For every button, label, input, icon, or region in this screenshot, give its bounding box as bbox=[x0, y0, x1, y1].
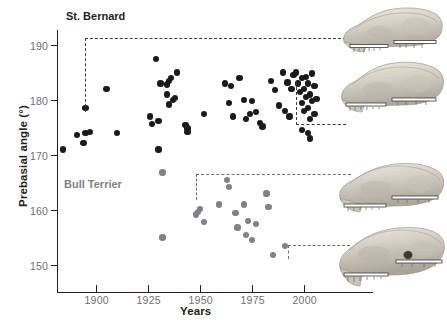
y-tick-label-190: 190 bbox=[30, 40, 48, 52]
x-tick-label-2000: 2000 bbox=[293, 294, 317, 306]
data-point-bull-terrier-10 bbox=[234, 224, 240, 230]
data-point-st-bernard-35 bbox=[253, 109, 259, 115]
data-point-bull-terrier-11 bbox=[241, 201, 247, 207]
data-point-st-bernard-7 bbox=[114, 130, 120, 136]
x-tick-2000: 2000 bbox=[304, 285, 305, 292]
y-tick-label-180: 180 bbox=[30, 95, 48, 107]
data-point-bull-terrier-9 bbox=[232, 210, 238, 216]
data-point-bull-terrier-7 bbox=[226, 184, 232, 190]
data-point-bull-terrier-18 bbox=[270, 252, 276, 258]
data-point-st-bernard-0 bbox=[60, 146, 66, 152]
data-point-st-bernard-40 bbox=[276, 102, 282, 108]
data-point-st-bernard-15 bbox=[166, 78, 172, 84]
data-point-bull-terrier-16 bbox=[263, 190, 269, 196]
data-point-st-bernard-45 bbox=[288, 86, 294, 92]
data-point-st-bernard-62 bbox=[311, 83, 317, 89]
y-tick-190: 190 bbox=[51, 45, 57, 46]
data-point-st-bernard-24 bbox=[184, 129, 190, 135]
data-point-st-bernard-42 bbox=[284, 79, 290, 85]
y-axis-label: Prebasial angle (°) bbox=[17, 81, 29, 231]
data-point-st-bernard-12 bbox=[157, 80, 163, 86]
y-tick-150: 150 bbox=[51, 265, 57, 266]
data-point-st-bernard-2 bbox=[80, 140, 86, 146]
bull-terrier-modern-skull bbox=[336, 222, 446, 294]
data-point-bull-terrier-4 bbox=[197, 206, 203, 212]
data-point-bull-terrier-1 bbox=[159, 234, 165, 240]
callout-bull-terrier-historic-horizontal bbox=[196, 174, 351, 175]
data-point-bull-terrier-5 bbox=[201, 219, 207, 225]
x-tick-label-1975: 1975 bbox=[241, 294, 265, 306]
data-point-st-bernard-29 bbox=[230, 113, 236, 119]
callout-st-bernard-modern-vertical bbox=[296, 82, 297, 125]
data-point-st-bernard-52 bbox=[301, 86, 307, 92]
data-point-st-bernard-63 bbox=[311, 111, 317, 117]
data-point-st-bernard-17 bbox=[164, 91, 170, 97]
x-axis-line bbox=[57, 292, 373, 293]
data-point-st-bernard-67 bbox=[307, 135, 313, 141]
data-point-bull-terrier-17 bbox=[265, 204, 271, 210]
callout-st-bernard-historic-vertical bbox=[85, 38, 86, 112]
data-point-bull-terrier-6 bbox=[224, 177, 230, 183]
data-point-st-bernard-11 bbox=[153, 56, 159, 62]
st-bernard-modern-skull bbox=[336, 58, 446, 120]
data-point-bull-terrier-0 bbox=[159, 169, 165, 175]
x-axis-label: Years bbox=[180, 305, 211, 317]
data-point-bull-terrier-8 bbox=[216, 201, 222, 207]
data-point-bull-terrier-14 bbox=[249, 237, 255, 243]
data-point-st-bernard-59 bbox=[307, 116, 313, 122]
callout-st-bernard-historic-horizontal bbox=[85, 38, 351, 39]
prebasial-angle-scatter-figure: 150160170180190 19001925195019752000 Pre… bbox=[0, 0, 447, 330]
x-tick-1900: 1900 bbox=[96, 285, 97, 292]
data-point-st-bernard-1 bbox=[74, 132, 80, 138]
data-point-st-bernard-47 bbox=[293, 69, 299, 75]
data-point-st-bernard-28 bbox=[226, 100, 232, 106]
data-point-st-bernard-37 bbox=[259, 123, 265, 129]
y-tick-180: 180 bbox=[51, 100, 57, 101]
y-tick-label-170: 170 bbox=[30, 150, 48, 162]
data-point-st-bernard-31 bbox=[241, 97, 247, 103]
data-point-st-bernard-27 bbox=[228, 83, 234, 89]
bull-terrier-historic-skull bbox=[336, 160, 446, 222]
data-point-bull-terrier-15 bbox=[253, 221, 259, 227]
y-tick-label-160: 160 bbox=[30, 205, 48, 217]
data-point-st-bernard-38 bbox=[268, 78, 274, 84]
data-point-st-bernard-21 bbox=[155, 146, 161, 152]
series-label-st-bernard: St. Bernard bbox=[66, 10, 125, 22]
x-tick-1925: 1925 bbox=[148, 285, 149, 292]
y-axis-line bbox=[57, 30, 58, 292]
data-point-st-bernard-60 bbox=[309, 70, 315, 76]
data-point-st-bernard-51 bbox=[299, 100, 305, 106]
data-point-st-bernard-25 bbox=[201, 111, 207, 117]
data-point-st-bernard-6 bbox=[103, 86, 109, 92]
data-point-bull-terrier-13 bbox=[243, 232, 249, 238]
data-point-st-bernard-41 bbox=[280, 69, 286, 75]
data-point-st-bernard-4 bbox=[87, 129, 93, 135]
x-tick-label-1925: 1925 bbox=[137, 294, 161, 306]
data-point-st-bernard-64 bbox=[313, 96, 319, 102]
y-tick-170: 170 bbox=[51, 155, 57, 156]
data-point-st-bernard-10 bbox=[155, 118, 161, 124]
st-bernard-historic-skull bbox=[336, 2, 446, 60]
x-tick-1975: 1975 bbox=[252, 285, 253, 292]
data-point-st-bernard-57 bbox=[305, 105, 311, 111]
callout-bull-terrier-modern-vertical bbox=[288, 245, 289, 259]
data-point-st-bernard-39 bbox=[272, 87, 278, 93]
data-point-st-bernard-8 bbox=[147, 113, 153, 119]
y-tick-label-150: 150 bbox=[30, 260, 48, 272]
callout-bull-terrier-historic-vertical bbox=[196, 174, 197, 200]
data-point-st-bernard-20 bbox=[172, 95, 178, 101]
data-point-st-bernard-44 bbox=[286, 113, 292, 119]
series-label-bull-terrier: Bull Terrier bbox=[64, 178, 122, 190]
x-tick-label-1900: 1900 bbox=[85, 294, 109, 306]
data-point-st-bernard-16 bbox=[174, 69, 180, 75]
data-point-st-bernard-30 bbox=[236, 75, 242, 81]
callout-st-bernard-modern-horizontal bbox=[296, 124, 346, 125]
x-tick-1950: 1950 bbox=[200, 285, 201, 292]
y-tick-160: 160 bbox=[51, 210, 57, 211]
data-point-bull-terrier-12 bbox=[245, 218, 251, 224]
data-point-st-bernard-34 bbox=[249, 98, 255, 104]
